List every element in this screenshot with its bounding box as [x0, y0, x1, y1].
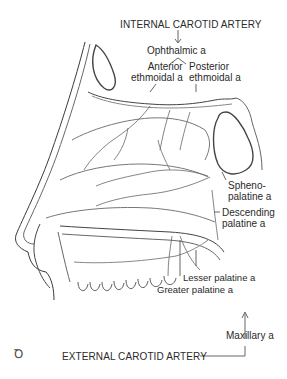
publisher-logo-icon: Ꝺ [14, 349, 23, 360]
anterior-ethmoidal-artery-label: Anterior ethmoidal a [131, 61, 183, 83]
posterior-ethmoidal-artery-label: Posterior ethmoidal a [189, 61, 241, 83]
artery-branches [84, 106, 218, 276]
sphenoid-sinus [214, 112, 254, 174]
ophthalmic-artery-label: Ophthalmic a [147, 45, 206, 56]
greater-palatine-artery-label: Greater palatine a [157, 284, 233, 295]
descending-palatine-artery-label: Descending palatine a [222, 207, 275, 229]
maxillary-artery-label: Maxillary a [226, 330, 274, 341]
internal-carotid-artery-label: INTERNAL CAROTID ARTERY [120, 19, 262, 30]
frontal-sinus [93, 45, 116, 90]
external-carotid-artery-label: EXTERNAL CAROTID ARTERY [62, 351, 207, 362]
sphenopalatine-artery-label: Spheno- palatine a [228, 180, 271, 202]
lesser-palatine-artery-label: Lesser palatine a [183, 272, 255, 283]
